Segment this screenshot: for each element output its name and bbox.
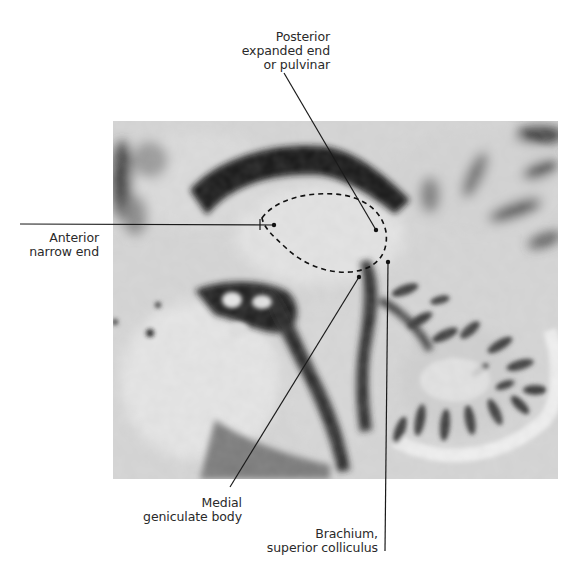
label-anterior-narrow-end: Anterior narrow end (29, 231, 99, 259)
mri-figure (0, 0, 577, 570)
mgb-dot (357, 275, 361, 279)
label-mgb-line-1: Medial (143, 496, 242, 510)
label-mgb-line-2: geniculate body (143, 510, 242, 524)
label-brachium-superior-colliculus: Brachium, superior colliculus (267, 527, 378, 555)
pulvinar-dot (374, 228, 378, 232)
label-anterior-line-1: Anterior (29, 231, 99, 245)
label-brachium-line-1: Brachium, (267, 527, 378, 541)
label-pulvinar-line-3: or pulvinar (242, 58, 330, 72)
label-brachium-line-2: superior colliculus (267, 541, 378, 555)
anterior-dot (272, 223, 276, 227)
label-medial-geniculate-body: Medial geniculate body (143, 496, 242, 524)
label-pulvinar-line-2: expanded end (242, 44, 330, 58)
brachium-dot (386, 260, 390, 264)
label-pulvinar: Posterior expanded end or pulvinar (242, 30, 330, 72)
label-pulvinar-line-1: Posterior (242, 30, 330, 44)
label-anterior-line-2: narrow end (29, 245, 99, 259)
figure-stage: Posterior expanded end or pulvinar Anter… (0, 0, 577, 570)
mri-image (112, 121, 565, 479)
